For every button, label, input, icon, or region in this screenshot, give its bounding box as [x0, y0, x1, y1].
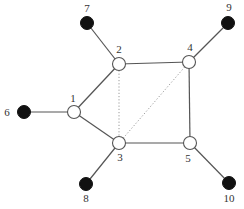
edge-2-4 [119, 62, 189, 64]
edge-3-8 [86, 143, 119, 184]
graph-labels: 12345678910 [4, 1, 235, 204]
node-3-open-circle [113, 137, 126, 150]
edge-1-2 [74, 64, 119, 112]
node-label-6: 6 [4, 106, 10, 118]
node-6-filled-circle [18, 106, 31, 119]
edge-3-4-dotted [119, 62, 189, 143]
edge-2-7 [87, 23, 119, 64]
node-10-filled-circle [223, 177, 236, 190]
node-5-open-circle [184, 137, 197, 150]
node-label-8: 8 [83, 192, 89, 204]
network-graph: 12345678910 [0, 0, 244, 209]
node-7-filled-circle [81, 17, 94, 30]
node-label-9: 9 [226, 1, 232, 13]
node-8-filled-circle [80, 178, 93, 191]
node-label-7: 7 [84, 2, 90, 14]
graph-nodes [18, 17, 236, 191]
node-label-3: 3 [117, 151, 123, 163]
node-1-open-circle [68, 106, 81, 119]
edge-4-5 [189, 62, 190, 143]
node-label-4: 4 [187, 41, 193, 53]
node-label-10: 10 [224, 192, 236, 204]
graph-edges [24, 23, 229, 184]
edge-1-3 [74, 112, 119, 143]
node-label-2: 2 [116, 43, 122, 55]
node-label-5: 5 [185, 152, 191, 164]
node-9-filled-circle [222, 17, 235, 30]
edge-5-10 [190, 143, 229, 183]
node-label-1: 1 [70, 92, 76, 104]
edge-4-9 [189, 23, 228, 62]
node-2-open-circle [113, 58, 126, 71]
node-4-open-circle [183, 56, 196, 69]
